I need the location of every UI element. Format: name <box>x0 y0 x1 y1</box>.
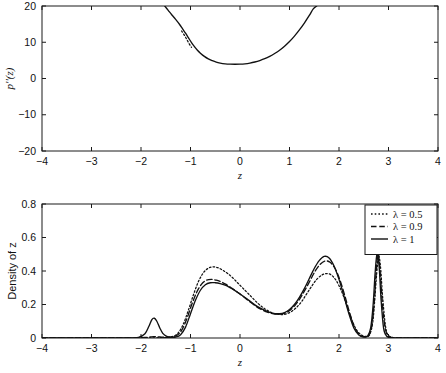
xticklabel-bottom-2: −2 <box>135 342 147 354</box>
xticklabel-top-7: 3 <box>386 155 392 167</box>
figure-svg: −4−3−2−101234−20−1001020zp''(z)−4−3−2−10… <box>0 0 446 373</box>
xticklabel-top-2: −2 <box>135 155 147 167</box>
panel-top: −4−3−2−101234−20−1001020zp''(z) <box>3 0 441 181</box>
curve-top-0 <box>165 6 317 64</box>
xticklabel-bottom-6: 2 <box>336 342 342 354</box>
legend-bottom: λ = 0.5λ = 0.9λ = 1 <box>365 205 437 255</box>
yticklabel-bottom-0: 0 <box>30 332 36 344</box>
yaxis-title-top: p''(z) <box>3 67 16 90</box>
xticklabel-bottom-0: −4 <box>36 342 48 354</box>
xticklabel-top-0: −4 <box>36 155 48 167</box>
xaxis-title-top: z <box>237 169 243 181</box>
legend-label-0: λ = 0.5 <box>393 209 422 220</box>
xticklabel-top-6: 2 <box>336 155 342 167</box>
yticklabel-bottom-4: 0.8 <box>21 198 36 210</box>
curves-top <box>165 6 317 64</box>
yticklabel-top-1: −10 <box>18 108 36 120</box>
yticklabel-bottom-1: 0.2 <box>21 298 36 310</box>
xticklabel-top-5: 1 <box>287 155 293 167</box>
yticklabel-bottom-2: 0.4 <box>21 265 36 277</box>
legend-label-2: λ = 1 <box>393 234 415 245</box>
xticklabel-bottom-3: −1 <box>185 342 197 354</box>
xaxis-title-bottom: z <box>237 356 243 368</box>
xticklabel-top-1: −3 <box>86 155 98 167</box>
xticklabel-bottom-5: 1 <box>287 342 293 354</box>
xticklabel-bottom-4: 0 <box>237 342 243 354</box>
panel-bottom: −4−3−2−10123400.20.40.60.8zDensity of zλ… <box>6 198 441 368</box>
yticklabel-top-3: 10 <box>24 36 36 48</box>
yticklabel-top-0: −20 <box>18 145 36 157</box>
xticklabel-top-4: 0 <box>237 155 243 167</box>
curve-bottom-2 <box>42 253 438 338</box>
yticklabel-bottom-3: 0.6 <box>21 231 36 243</box>
axes-box-top <box>42 6 438 151</box>
xticklabel-top-8: 4 <box>435 155 441 167</box>
legend-label-1: λ = 0.9 <box>393 221 422 232</box>
xticklabel-bottom-7: 3 <box>386 342 392 354</box>
curves-bottom <box>42 253 438 338</box>
yaxis-title-bottom: Density of z <box>6 242 18 299</box>
xticklabel-bottom-1: −3 <box>86 342 98 354</box>
yticklabel-top-4: 20 <box>24 0 36 12</box>
yticklabel-top-2: 0 <box>30 72 36 84</box>
xticklabel-top-3: −1 <box>185 155 197 167</box>
xticklabel-bottom-8: 4 <box>435 342 441 354</box>
figure-container: −4−3−2−101234−20−1001020zp''(z)−4−3−2−10… <box>0 0 446 373</box>
